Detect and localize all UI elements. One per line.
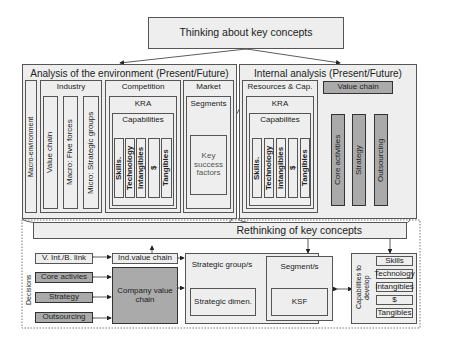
cap-develop-item: Tangibles (376, 308, 413, 318)
cap-develop-label: Capabilities to develop (355, 260, 375, 315)
cap-item: Technology (264, 138, 274, 198)
cap-item: Skills. (252, 138, 262, 198)
vc-item: Strategy (352, 114, 366, 206)
decision-item: V. Int./B. link (35, 253, 93, 264)
industry-item: Micro: Strategic groups (83, 96, 99, 209)
ind-value-chain: Ind.value chain (112, 253, 178, 264)
vc-item: Outsourcing (374, 114, 388, 206)
cap-item: Skills. (114, 138, 124, 198)
cap-develop-item: Intangibles (376, 282, 413, 292)
cap-item: $ (148, 138, 160, 198)
cap-item: Tangibles (161, 138, 172, 198)
decisions-label: Decisions (25, 260, 35, 320)
strategic-groups-label: Strategic group/s (187, 260, 257, 269)
macro-env: Macro-environment (25, 80, 37, 213)
company-value-chain: Company value chain (112, 267, 178, 324)
decision-item: Core activies (35, 272, 93, 283)
cap-develop-item: Skills (376, 256, 413, 266)
value-chain-box: Value chain (323, 81, 393, 94)
cap-item: $ (288, 138, 298, 198)
cap-item: Intangibles (276, 138, 286, 198)
strategic-dimen: Strategic dimen. (190, 288, 256, 316)
ksf-box: KSF (271, 288, 328, 316)
ksf-box: Key success factors (190, 135, 227, 195)
thinking-title: Thinking about key concepts (148, 17, 344, 49)
vc-item: Core activities (331, 114, 345, 206)
cap-develop-item: Technology (376, 269, 413, 279)
industry-item: Value chain (43, 96, 58, 209)
industry-item: Macro: Five forces (63, 96, 78, 209)
cap-item: Technology (125, 138, 135, 198)
rethinking-title: Rethinking of key concepts (33, 222, 407, 239)
decision-item: Outsourcing (35, 312, 93, 323)
cap-item: Intangibles (136, 138, 146, 198)
decision-item: Strategy (35, 292, 93, 303)
cap-develop-item: $ (376, 295, 413, 305)
cap-item: Tangibles (300, 138, 310, 198)
